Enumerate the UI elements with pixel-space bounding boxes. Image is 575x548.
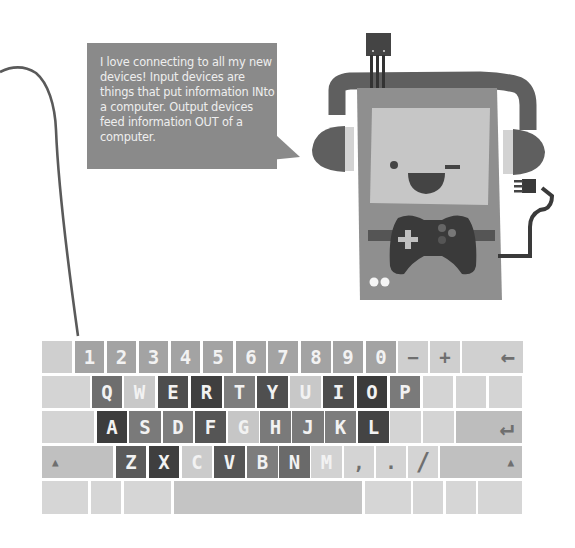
key-6[interactable]: 6	[236, 341, 266, 373]
key-blank[interactable]	[478, 481, 522, 514]
key-blank[interactable]	[124, 481, 171, 514]
key-shift[interactable]: ▲	[42, 446, 113, 478]
key-blank[interactable]	[91, 481, 121, 514]
key-3[interactable]: 3	[139, 341, 168, 373]
key-9[interactable]: 9	[333, 341, 363, 373]
key-e[interactable]: E	[158, 376, 188, 408]
key-h[interactable]: H	[260, 411, 291, 443]
key-blank[interactable]	[423, 376, 453, 408]
key-backspace[interactable]: ←	[462, 341, 523, 373]
key-7[interactable]: 7	[268, 341, 298, 373]
key-blank[interactable]	[413, 481, 443, 514]
key-q[interactable]: Q	[92, 376, 122, 408]
key-blank[interactable]	[42, 411, 94, 443]
key-5[interactable]: 5	[203, 341, 233, 373]
key-s[interactable]: S	[129, 411, 161, 443]
key-w[interactable]: W	[124, 376, 155, 408]
key-f[interactable]: F	[195, 411, 226, 443]
key-x[interactable]: X	[149, 446, 179, 478]
key-2[interactable]: 2	[107, 341, 136, 373]
key-j[interactable]: J	[292, 411, 324, 443]
key-i[interactable]: I	[323, 376, 354, 408]
key-o[interactable]: O	[357, 376, 387, 408]
key-l[interactable]: L	[358, 411, 389, 443]
keyboard: 1234567890−+←QWERTYUIOPASDFGHJKL↵▲ZXCVBN…	[0, 0, 575, 548]
key-blank[interactable]	[423, 411, 454, 443]
key-blank[interactable]	[42, 481, 88, 514]
key-v[interactable]: V	[214, 446, 245, 478]
key-1[interactable]: 1	[75, 341, 104, 373]
key-0[interactable]: 0	[366, 341, 396, 373]
key-minus[interactable]: −	[398, 341, 428, 373]
key-b[interactable]: B	[247, 446, 278, 478]
key-4[interactable]: 4	[171, 341, 200, 373]
key-period[interactable]: .	[376, 446, 406, 478]
key-blank[interactable]	[456, 376, 486, 408]
key-y[interactable]: Y	[257, 376, 288, 408]
key-t[interactable]: T	[224, 376, 255, 408]
key-a[interactable]: A	[97, 411, 127, 443]
key-space[interactable]	[174, 481, 362, 514]
key-d[interactable]: D	[163, 411, 193, 443]
key-blank[interactable]	[42, 341, 72, 373]
key-z[interactable]: Z	[116, 446, 146, 478]
key-blank[interactable]	[489, 376, 522, 408]
key-comma[interactable]: ,	[344, 446, 374, 478]
key-slash[interactable]: /	[408, 446, 438, 478]
key-blank[interactable]	[446, 481, 476, 514]
key-m[interactable]: M	[311, 446, 342, 478]
key-blank[interactable]	[365, 481, 411, 514]
key-u[interactable]: U	[290, 376, 321, 408]
key-p[interactable]: P	[390, 376, 420, 408]
key-shift[interactable]: ▲	[440, 446, 522, 478]
key-k[interactable]: K	[325, 411, 356, 443]
key-enter[interactable]: ↵	[456, 411, 522, 443]
key-blank[interactable]	[390, 411, 421, 443]
key-8[interactable]: 8	[301, 341, 331, 373]
key-blank[interactable]	[42, 376, 90, 408]
key-g[interactable]: G	[228, 411, 259, 443]
key-n[interactable]: N	[279, 446, 310, 478]
key-c[interactable]: C	[182, 446, 212, 478]
key-plus[interactable]: +	[430, 341, 460, 373]
key-r[interactable]: R	[191, 376, 222, 408]
